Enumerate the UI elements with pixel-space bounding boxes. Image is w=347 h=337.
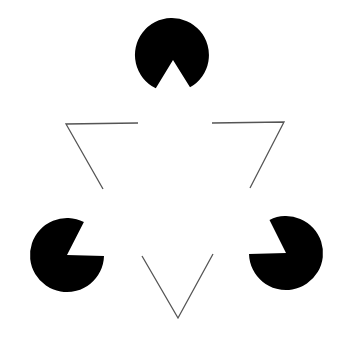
line-corner-group [66, 122, 284, 318]
line-corner-bottom [142, 254, 213, 318]
pacman-top [135, 18, 209, 88]
pacman-left [30, 218, 104, 292]
line-corner-left [66, 123, 138, 189]
pacman-right [249, 216, 323, 290]
line-corner-right [212, 122, 284, 188]
kanizsa-triangle-diagram [0, 0, 347, 337]
pacman-group [30, 18, 323, 292]
